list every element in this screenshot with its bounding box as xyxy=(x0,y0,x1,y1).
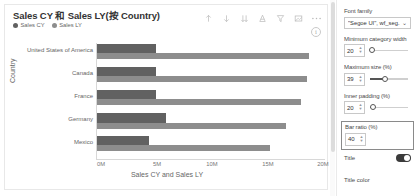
y-axis-tick-label: France xyxy=(74,93,93,99)
inner-padding-value: 20 xyxy=(347,105,354,111)
field-label-minimum-category-width: Minimum category width xyxy=(344,36,410,42)
minimum-category-width-stepper[interactable]: 20 ▲▼ xyxy=(344,44,365,57)
chart-legend: Sales CY Sales LY xyxy=(13,22,82,28)
font-family-select[interactable]: "Segoe UI", wf_seg... ⌄ xyxy=(344,17,411,29)
expand-all-icon[interactable] xyxy=(239,13,250,24)
bar-sales-cy[interactable] xyxy=(97,113,166,123)
legend-dot-icon xyxy=(52,23,57,28)
y-axis-tick-label: United States of America xyxy=(27,47,93,53)
font-family-value: "Segoe UI", wf_seg... xyxy=(348,20,400,26)
bar-sales-ly[interactable] xyxy=(97,76,307,82)
field-bar-ratio: Bar ratio (%) 40 ▲▼ xyxy=(341,121,414,150)
x-axis-tick-label: 20M xyxy=(317,161,328,167)
field-title-toggle: Title xyxy=(344,154,411,162)
field-minimum-category-width: Minimum category width 20 ▲▼ xyxy=(344,36,410,58)
field-label-title-color: Title color xyxy=(344,177,370,183)
maximum-size-row: 39 ▲▼ xyxy=(344,73,410,86)
bar-sales-cy[interactable] xyxy=(97,90,156,99)
slider-track xyxy=(370,50,408,52)
format-pane-scroll-thumb[interactable] xyxy=(331,2,335,152)
maximum-size-stepper[interactable]: 39 ▲▼ xyxy=(344,73,365,86)
drill-up-icon[interactable] xyxy=(203,13,214,24)
y-axis-tick-label: Canada xyxy=(72,70,93,76)
slider-knob[interactable] xyxy=(382,76,388,82)
toggle-knob xyxy=(404,155,410,161)
legend-dot-icon xyxy=(13,23,18,28)
minimum-category-width-row: 20 ▲▼ xyxy=(344,44,410,57)
x-axis-title: Sales CY and Sales LY xyxy=(5,171,329,178)
stepper-arrows-icon[interactable]: ▲▼ xyxy=(360,135,364,142)
field-label-maximum-size: Maximum size (%) xyxy=(344,64,410,70)
legend-item-sales-ly[interactable]: Sales LY xyxy=(52,22,82,28)
y-axis-tick-label: Germany xyxy=(68,116,93,122)
bar-sales-ly[interactable] xyxy=(97,123,286,129)
bar-ratio-stepper[interactable]: 40 ▲▼ xyxy=(345,133,366,146)
x-axis-line xyxy=(96,159,325,160)
stepper-arrows-icon[interactable]: ▲▼ xyxy=(359,46,363,53)
chart-visual-card[interactable]: Sales CY 和 Sales LY(按 Country) Sales CY … xyxy=(4,4,328,190)
minimum-category-width-value: 20 xyxy=(347,48,354,54)
bar-sales-ly[interactable] xyxy=(97,145,270,151)
maximum-size-value: 39 xyxy=(347,76,354,82)
x-axis-tick-label: 0M xyxy=(97,161,105,167)
field-maximum-size: Maximum size (%) 39 ▲▼ xyxy=(344,64,410,86)
field-inner-padding: Inner padding (%) 20 ▲▼ xyxy=(344,93,410,115)
bar-sales-cy[interactable] xyxy=(97,67,156,76)
bars-area xyxy=(97,43,325,159)
minimum-category-width-slider[interactable] xyxy=(370,45,408,57)
field-font-family: Font family "Segoe UI", wf_seg... ⌄ xyxy=(344,8,410,29)
visual-toolbar xyxy=(203,13,322,24)
filter-icon[interactable] xyxy=(275,13,286,24)
y-axis-tick-label: Mexico xyxy=(74,139,93,145)
bar-sales-ly[interactable] xyxy=(97,99,301,105)
bar-sales-ly[interactable] xyxy=(97,53,309,59)
slider-knob[interactable] xyxy=(370,104,376,110)
more-options-icon[interactable] xyxy=(311,13,322,24)
legend-label-sales-cy: Sales CY xyxy=(21,22,45,28)
title-toggle-switch[interactable] xyxy=(396,154,411,162)
chevron-down-icon: ⌄ xyxy=(402,20,407,26)
field-label-font-family: Font family xyxy=(344,8,410,14)
visual-header: Sales CY 和 Sales LY(按 Country) Sales CY … xyxy=(5,5,327,35)
bar-sales-cy[interactable] xyxy=(97,44,156,53)
stepper-arrows-icon[interactable]: ▲▼ xyxy=(359,103,363,110)
x-axis-tick-label: 5M xyxy=(153,161,161,167)
slider-knob[interactable] xyxy=(369,47,375,53)
field-label-inner-padding: Inner padding (%) xyxy=(344,93,410,99)
bar-ratio-value: 40 xyxy=(348,136,355,142)
screenshot-root: Sales CY 和 Sales LY(按 Country) Sales CY … xyxy=(0,0,416,196)
x-axis-tick-label: 10M xyxy=(206,161,217,167)
field-title-color[interactable]: Title color xyxy=(344,168,410,186)
inner-padding-stepper[interactable]: 20 ▲▼ xyxy=(344,101,365,114)
x-axis-tick-labels: 0M 5M 10M 15M 20M xyxy=(97,161,325,171)
field-label-bar-ratio: Bar ratio (%) xyxy=(345,124,410,130)
chart-plot-area: Country United States of America Canada … xyxy=(5,35,327,191)
legend-item-sales-cy[interactable]: Sales CY xyxy=(13,22,45,28)
y-axis-title: Country xyxy=(9,58,16,83)
x-axis-tick-label: 15M xyxy=(262,161,273,167)
format-pane: Font family "Segoe UI", wf_seg... ⌄ Mini… xyxy=(336,0,416,196)
focus-mode-icon[interactable] xyxy=(293,13,304,24)
drill-down-icon[interactable] xyxy=(221,13,232,24)
legend-label-sales-ly: Sales LY xyxy=(59,22,82,28)
stepper-arrows-icon[interactable]: ▲▼ xyxy=(359,75,363,82)
inner-padding-row: 20 ▲▼ xyxy=(344,101,410,114)
field-label-title: Title xyxy=(344,155,355,161)
maximum-size-slider[interactable] xyxy=(370,73,408,85)
page-title: Sales CY 和 Sales LY(按 Country) xyxy=(13,8,160,22)
inner-padding-slider[interactable] xyxy=(370,102,408,114)
drill-mode-icon[interactable] xyxy=(257,13,268,24)
bar-sales-cy[interactable] xyxy=(97,136,149,145)
y-axis-tick-labels: United States of America Canada France G… xyxy=(19,43,93,159)
